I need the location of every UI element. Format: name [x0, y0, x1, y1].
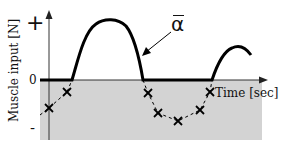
- x-axis-arrow-icon: [259, 77, 268, 84]
- overbar: [173, 15, 184, 16]
- y-axis-label: Muscle input [N]: [7, 19, 21, 122]
- y-tick-plus: +: [26, 10, 44, 35]
- y-axis-arrow-icon: [46, 10, 53, 19]
- alpha-pointer-line: [146, 32, 171, 52]
- alpha-pointer-arrow-icon: [142, 47, 151, 56]
- y-tick-zero: 0: [29, 73, 37, 87]
- y-tick-minus: -: [30, 120, 35, 136]
- muscle-input-diagram: Muscle input [N] + 0 - Time [sec] α: [0, 0, 285, 147]
- alpha-label: α: [171, 12, 184, 36]
- x-axis-label: Time [sec]: [215, 86, 278, 100]
